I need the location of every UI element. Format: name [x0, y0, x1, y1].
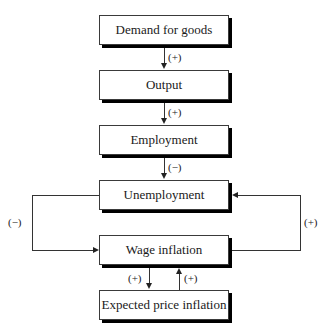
- arrow-down-icon: [161, 63, 167, 69]
- edge-left-loop-side: [32, 195, 33, 251]
- node-expected-price-inflation: Expected price inflation: [99, 290, 229, 320]
- edge-right-loop-side: [300, 195, 301, 251]
- edge-sign: (+): [168, 106, 182, 118]
- edge-right-loop-bottom: [232, 250, 300, 251]
- edge-sign: (+): [304, 216, 318, 228]
- edge-sign: (+): [168, 51, 182, 63]
- node-wage-inflation: Wage inflation: [99, 235, 229, 265]
- node-label: Employment: [130, 132, 197, 148]
- arrow-up-icon: [176, 268, 182, 274]
- node-demand-for-goods: Demand for goods: [99, 15, 229, 45]
- node-unemployment: Unemployment: [99, 180, 229, 210]
- node-label: Output: [146, 77, 182, 93]
- edge-sign: (+): [184, 272, 198, 284]
- node-label: Expected price inflation: [102, 297, 227, 313]
- edge-left-loop-top: [32, 195, 99, 196]
- node-output: Output: [99, 70, 229, 100]
- arrow-left-icon: [232, 192, 238, 198]
- edge-expected-wage: [179, 274, 180, 290]
- edge-output-employment: [164, 103, 165, 119]
- edge-employment-unemployment: [164, 158, 165, 174]
- arrow-right-icon: [93, 247, 99, 253]
- edge-sign: (−): [168, 161, 182, 173]
- node-label: Unemployment: [124, 187, 205, 203]
- edge-left-loop-bottom: [32, 250, 93, 251]
- arrow-down-icon: [146, 283, 152, 289]
- node-employment: Employment: [99, 125, 229, 155]
- arrow-down-icon: [161, 118, 167, 124]
- edge-right-loop-top: [238, 195, 300, 196]
- edge-wage-expected: [149, 268, 150, 284]
- arrow-down-icon: [161, 173, 167, 179]
- node-label: Wage inflation: [126, 242, 203, 258]
- edge-sign: (−): [8, 216, 22, 228]
- node-label: Demand for goods: [116, 22, 213, 38]
- edge-sign: (+): [128, 272, 142, 284]
- edge-demand-output: [164, 48, 165, 64]
